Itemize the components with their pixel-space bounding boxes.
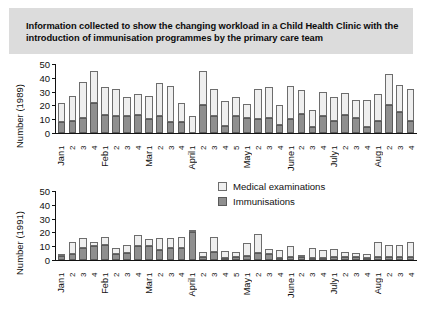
- bar-1991-feb-3: [123, 191, 131, 260]
- bar-segment-immunisations: [101, 115, 109, 133]
- x-tick-week-1989-may-3: 3: [265, 136, 274, 150]
- bar-1989-june-2: [298, 64, 306, 133]
- bar-segment-immunisations: [145, 246, 153, 260]
- bar-segment-medical: [167, 86, 175, 122]
- bar-1991-may-3: [265, 191, 273, 260]
- x-tick-week-1989-aug-4: 4: [407, 136, 416, 150]
- bar-1991-feb-2: [112, 191, 120, 260]
- bar-segment-medical: [243, 104, 251, 118]
- y-tick-label-1989-0: 0: [28, 128, 50, 139]
- bar-segment-medical: [243, 243, 251, 255]
- bar-segment-immunisations: [374, 121, 382, 133]
- bar-segment-immunisations: [123, 116, 131, 133]
- x-tick-week-1991-april-1: 1: [188, 263, 197, 277]
- y-tick-label-1989-30: 30: [28, 86, 50, 97]
- y-tick-label-1991-10: 10: [28, 241, 50, 252]
- x-tick-week-1989-july-1: 1: [330, 136, 339, 150]
- bar-1989-july-1: [330, 64, 338, 133]
- bar-1989-may-4: [276, 64, 284, 133]
- x-tick-week-1991-aug-2: 2: [385, 263, 394, 277]
- x-axis-month-1991-april: April: [187, 278, 197, 296]
- bar-segment-medical: [221, 101, 229, 126]
- bar-segment-immunisations: [341, 115, 349, 133]
- bar-segment-immunisations: [352, 118, 360, 133]
- bar-segment-immunisations: [385, 257, 393, 260]
- bar-1991-aug-3: [396, 191, 404, 260]
- bar-1989-april-5: [232, 64, 240, 133]
- bar-1989-feb-1: [101, 64, 109, 133]
- bar-1989-mar-4: [178, 64, 186, 133]
- bar-segment-immunisations: [156, 116, 164, 133]
- x-tick-week-1991-feb-1: 1: [101, 263, 110, 277]
- x-tick-week-1989-aug-2: 2: [385, 136, 394, 150]
- bar-segment-immunisations: [167, 122, 175, 133]
- bar-segment-medical: [79, 238, 87, 248]
- x-tick-week-1989-june-2: 2: [297, 136, 306, 150]
- bar-segment-immunisations: [287, 119, 295, 133]
- x-tick-week-1989-june-4: 4: [319, 136, 328, 150]
- bar-1989-april-1: [189, 64, 197, 133]
- bar-segment-medical: [265, 87, 273, 117]
- bar-segment-medical: [178, 103, 186, 122]
- bar-segment-medical: [112, 89, 120, 117]
- x-tick-week-1989-aug-1: 1: [374, 136, 383, 150]
- bar-1991-jan-2: [69, 191, 77, 260]
- bar-1991-june-2: [298, 191, 306, 260]
- y-axis-label-1989: Number (1989): [14, 66, 25, 148]
- bar-segment-immunisations: [243, 118, 251, 133]
- x-tick-week-1989-jan-3: 3: [79, 136, 88, 150]
- x-axis-month-1991-june: June: [286, 278, 296, 298]
- bar-segment-immunisations: [407, 257, 415, 260]
- x-tick-week-1989-mar-1: 1: [145, 136, 154, 150]
- bar-1991-mar-4: [178, 191, 186, 260]
- bar-segment-immunisations: [341, 257, 349, 260]
- bar-1991-feb-4: [134, 191, 142, 260]
- x-tick-week-1989-mar-2: 2: [156, 136, 165, 150]
- x-axis-month-1989-feb: Feb: [100, 151, 110, 167]
- bar-1989-jan-4: [90, 64, 98, 133]
- x-axis-month-1989-aug: Aug: [373, 151, 383, 167]
- bar-segment-medical: [210, 89, 218, 117]
- bar-segment-medical: [123, 245, 131, 253]
- bar-segment-immunisations: [319, 116, 327, 133]
- x-tick-week-1991-feb-4: 4: [134, 263, 143, 277]
- bar-1991-july-2: [341, 191, 349, 260]
- bar-1991-jan-1: [58, 191, 66, 260]
- bar-1989-may-3: [265, 64, 273, 133]
- bar-1991-april-4: [221, 191, 229, 260]
- bar-segment-immunisations: [178, 248, 186, 260]
- bar-segment-immunisations: [101, 245, 109, 260]
- x-tick-week-1991-mar-3: 3: [167, 263, 176, 277]
- bar-segment-immunisations: [90, 246, 98, 260]
- x-tick-week-1991-may-1: 1: [243, 263, 252, 277]
- bar-segment-medical: [90, 71, 98, 103]
- bar-segment-immunisations: [276, 125, 284, 133]
- x-tick-week-1989-july-3: 3: [352, 136, 361, 150]
- bar-1991-april-2: [199, 191, 207, 260]
- bar-segment-medical: [134, 235, 142, 246]
- x-tick-week-1989-feb-2: 2: [112, 136, 121, 150]
- bar-segment-medical: [298, 90, 306, 113]
- x-tick-week-1989-jan-4: 4: [90, 136, 99, 150]
- bar-segment-immunisations: [112, 254, 120, 260]
- x-tick-week-1991-may-3: 3: [265, 263, 274, 277]
- x-tick-week-1991-may-2: 2: [254, 263, 263, 277]
- bar-segment-immunisations: [385, 105, 393, 133]
- bar-1989-june-3: [309, 64, 317, 133]
- bar-segment-medical: [407, 242, 415, 257]
- bar-segment-immunisations: [112, 116, 120, 133]
- bar-1991-july-1: [330, 191, 338, 260]
- bar-segment-immunisations: [79, 248, 87, 260]
- y-tick-label-1989-10: 10: [28, 114, 50, 125]
- bar-1989-mar-1: [145, 64, 153, 133]
- x-tick-week-1989-may-4: 4: [276, 136, 285, 150]
- bar-segment-immunisations: [396, 112, 404, 133]
- x-tick-week-1989-june-1: 1: [287, 136, 296, 150]
- y-axis-label-1991: Number (1991): [14, 193, 25, 275]
- bar-1989-july-4: [363, 64, 371, 133]
- bar-1989-july-3: [352, 64, 360, 133]
- x-axis-month-1989-july: July: [329, 151, 339, 167]
- bar-segment-immunisations: [287, 257, 295, 260]
- x-tick-week-1991-april-2: 2: [199, 263, 208, 277]
- bar-segment-immunisations: [210, 116, 218, 133]
